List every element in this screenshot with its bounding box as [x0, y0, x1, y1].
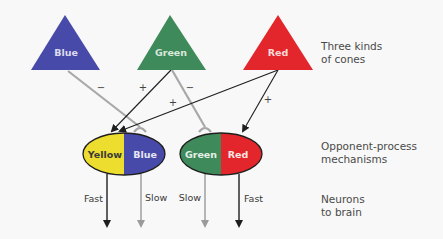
connection-green-inhibitory	[172, 70, 211, 132]
cone-blue: Blue	[31, 15, 100, 70]
opponent-process-diagram: − + − + + Blue Green Red Yellow Blue	[0, 0, 443, 239]
sign-green-plus: +	[139, 82, 147, 93]
cone-red: Red	[243, 15, 313, 70]
label-three-kinds-of-cones: Three kinds of cones	[321, 40, 382, 65]
sign-red-yellow-plus: +	[169, 97, 177, 108]
label-line: Opponent-process	[321, 140, 417, 153]
label-line: mechanisms	[321, 153, 417, 166]
connection-red-to-yellow	[120, 70, 278, 131]
sign-green-minus: −	[186, 82, 194, 93]
mechanism-yellow-blue: Yellow Blue	[82, 132, 166, 176]
neuron-label-fast-2: Fast	[244, 193, 263, 204]
neuron-label-slow-2: Slow	[179, 192, 201, 203]
mechanism-green-red: Green Red	[179, 132, 263, 176]
connection-green-to-yellow	[112, 70, 171, 131]
label-line: of cones	[321, 53, 382, 66]
label-neurons-to-brain: Neurons to brain	[321, 193, 365, 218]
mechanism-label-red: Red	[228, 149, 249, 160]
connection-red-to-red	[243, 70, 278, 131]
label-line: Three kinds	[321, 40, 382, 53]
cone-green: Green	[137, 15, 206, 70]
neuron-label-slow-1: Slow	[145, 192, 167, 203]
connection-blue-inhibitory	[68, 71, 146, 132]
sign-red-red-plus: +	[264, 94, 272, 105]
cone-label-blue: Blue	[54, 47, 78, 58]
mechanism-label-blue: Blue	[133, 149, 157, 160]
label-opponent-process-mechanisms: Opponent-process mechanisms	[321, 140, 417, 165]
label-line: to brain	[321, 206, 365, 219]
neuron-label-fast-1: Fast	[84, 193, 103, 204]
sign-blue-minus: −	[97, 82, 105, 93]
label-line: Neurons	[321, 193, 365, 206]
mechanism-label-yellow: Yellow	[87, 149, 122, 160]
mechanism-label-green: Green	[185, 149, 217, 160]
cone-label-green: Green	[155, 47, 187, 58]
cone-label-red: Red	[268, 47, 289, 58]
